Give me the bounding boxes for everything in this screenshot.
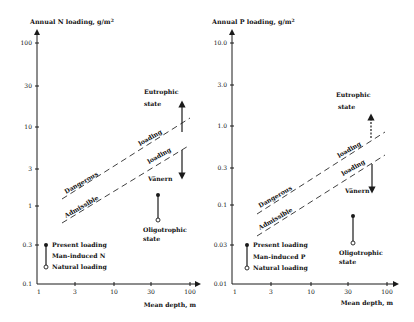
filled-dot-icon bbox=[44, 243, 48, 247]
lake-label: Vänern bbox=[147, 175, 173, 182]
legend: Present loading Man-induced P Natural lo… bbox=[245, 241, 308, 272]
chart-figure: Annual N loading, g/m2 100 30 10 3 1 0.3… bbox=[0, 0, 414, 322]
oligotrophic-state-label: state bbox=[339, 258, 356, 265]
eutrophic-label: Eutrophic bbox=[336, 91, 371, 99]
svg-text:10: 10 bbox=[307, 288, 315, 295]
legend: Present loading Man-induced N Natural lo… bbox=[44, 241, 107, 271]
oligotrophic-label: Oligotrophic bbox=[339, 249, 383, 257]
dangerous-label: Dangerous bbox=[63, 170, 100, 196]
svg-text:1.0: 1.0 bbox=[217, 122, 227, 129]
dangerous-loading-line bbox=[257, 132, 385, 214]
svg-text:1: 1 bbox=[233, 288, 237, 295]
oligotrophic-state-label: state bbox=[143, 235, 160, 242]
y-axis-title: Annual N loading, g/m2 bbox=[29, 18, 114, 27]
present-loading-point bbox=[156, 193, 160, 197]
svg-text:1: 1 bbox=[37, 288, 41, 295]
open-circle-icon bbox=[245, 266, 249, 270]
eutrophic-state-label: state bbox=[338, 103, 355, 110]
svg-text:100: 100 bbox=[381, 288, 393, 295]
svg-text:10.0: 10.0 bbox=[214, 39, 228, 46]
y-axis-title: Annual P loading, g/m2 bbox=[211, 18, 295, 27]
svg-text:0.3: 0.3 bbox=[217, 164, 227, 171]
x-axis-title: Mean depth, m bbox=[341, 299, 394, 307]
loading-label: loading bbox=[336, 139, 363, 159]
eutrophic-label: Eutrophic bbox=[144, 88, 179, 96]
svg-text:0.03: 0.03 bbox=[214, 241, 228, 248]
x-axis-title: Mean depth, m bbox=[144, 301, 197, 309]
svg-text:0.3: 0.3 bbox=[22, 241, 32, 248]
natural-loading-point bbox=[156, 218, 160, 222]
svg-text:100: 100 bbox=[184, 288, 196, 295]
y-ticks: 10.0 3.0 1.0 0.3 0.1 0.03 0.01 bbox=[214, 39, 234, 287]
svg-text:Present loading: Present loading bbox=[253, 241, 308, 249]
eutrophic-state-label: state bbox=[144, 100, 161, 107]
svg-text:10: 10 bbox=[24, 123, 32, 130]
svg-text:0.1: 0.1 bbox=[22, 280, 32, 287]
admissible-label: Admissible bbox=[256, 206, 293, 232]
svg-text:10: 10 bbox=[110, 288, 118, 295]
oligotrophic-label: Oligotrophic bbox=[143, 226, 187, 234]
svg-text:30: 30 bbox=[344, 288, 352, 295]
lake-label: Vänern bbox=[344, 187, 370, 194]
admissible-label: Admissible bbox=[62, 194, 99, 220]
svg-text:Natural loading: Natural loading bbox=[52, 263, 107, 271]
svg-text:Man-induced N: Man-induced N bbox=[52, 252, 106, 259]
svg-text:Present loading: Present loading bbox=[52, 241, 107, 249]
n-loading-chart: Annual N loading, g/m2 100 30 10 3 1 0.3… bbox=[21, 18, 198, 310]
svg-text:Man-induced P: Man-induced P bbox=[253, 253, 306, 260]
svg-text:Natural loading: Natural loading bbox=[253, 264, 308, 272]
filled-dot-icon bbox=[245, 243, 249, 247]
p-loading-chart: Annual P loading, g/m2 10.0 3.0 1.0 0.3 … bbox=[211, 18, 396, 308]
present-loading-point bbox=[351, 214, 355, 218]
y-ticks: 100 30 10 3 1 0.3 0.1 bbox=[21, 39, 39, 287]
svg-text:0.1: 0.1 bbox=[217, 201, 227, 208]
svg-text:3: 3 bbox=[269, 288, 273, 295]
loading-label: loading bbox=[137, 127, 164, 147]
svg-text:3.0: 3.0 bbox=[217, 81, 227, 88]
svg-text:3: 3 bbox=[28, 165, 32, 172]
svg-text:0.01: 0.01 bbox=[214, 280, 227, 287]
svg-text:1: 1 bbox=[28, 202, 32, 209]
svg-text:3: 3 bbox=[73, 288, 77, 295]
svg-text:100: 100 bbox=[21, 39, 33, 46]
loading-label: loading bbox=[146, 145, 173, 165]
dangerous-loading-line bbox=[62, 118, 190, 199]
open-circle-icon bbox=[44, 265, 48, 269]
natural-loading-point bbox=[351, 241, 355, 245]
svg-text:30: 30 bbox=[24, 82, 32, 89]
svg-text:30: 30 bbox=[147, 288, 155, 295]
